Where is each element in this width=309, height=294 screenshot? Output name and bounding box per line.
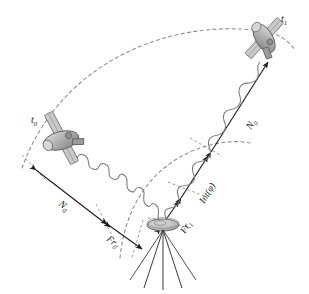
label-fractional-0: Fr0 <box>103 233 121 251</box>
svg-text:N0: N0 <box>55 197 72 214</box>
label-epoch-t1: t1 <box>281 13 287 26</box>
range-measurement-line-t0 <box>22 155 143 258</box>
dashed-range-arc-lower <box>120 142 250 258</box>
svg-text:N0: N0 <box>243 116 260 133</box>
svg-text:Fr0: Fr0 <box>103 233 121 251</box>
ground-receiver-antenna <box>147 218 179 231</box>
svg-text:Fr1: Fr1 <box>178 219 195 237</box>
svg-text:t1: t1 <box>281 13 287 26</box>
satellite-at-epoch-t0 <box>30 104 92 173</box>
satellite-interferometry-figure: t0 t1 N0 N0 Fr0 Fr1 Int(φ) <box>0 0 309 294</box>
epoch-t0-subscript: 0 <box>34 120 38 127</box>
carrier-wave-from-t0 <box>63 147 166 224</box>
label-ambiguity-left: N0 <box>55 197 72 214</box>
carrier-wave-from-t1 <box>165 62 260 224</box>
satellite-at-epoch-t1 <box>235 8 294 68</box>
epoch-t1-subscript: 1 <box>284 19 287 26</box>
antenna-tripod <box>130 230 196 290</box>
range-measurement-line-t1 <box>148 62 268 228</box>
label-ambiguity-right: N0 <box>243 116 260 133</box>
integer-phase-text: Int(φ) <box>197 181 219 206</box>
label-fractional-1: Fr1 <box>178 219 195 237</box>
label-integer-phase: Int(φ) <box>197 181 219 206</box>
svg-text:t0: t0 <box>31 114 38 127</box>
label-epoch-t0: t0 <box>31 114 38 127</box>
